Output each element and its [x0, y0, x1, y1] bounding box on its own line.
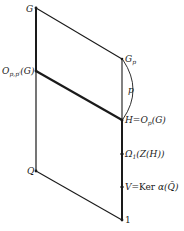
label-Q: Q — [27, 166, 35, 176]
label-G: G — [26, 4, 33, 14]
node-Q — [35, 170, 38, 173]
node-H — [121, 119, 124, 122]
edge-G-Gp — [36, 8, 122, 59]
label-V: V=Ker α(Q̄) — [125, 181, 179, 192]
label-one: 1 — [125, 215, 131, 225]
label-H: H=Op(G) — [124, 115, 166, 127]
node-G — [35, 7, 38, 10]
label-Gp: Gp — [125, 54, 136, 66]
label-Opp: Op,p′(G) — [2, 66, 35, 78]
node-Opp — [35, 70, 38, 73]
lattice-diagram: G Op,p′(G) Q Gp p H=Op(G) Ω1(Z(H)) V=Ker… — [0, 0, 184, 231]
node-one — [121, 219, 124, 222]
edge-Q-one — [36, 171, 122, 220]
edge-Opp-H — [36, 71, 122, 120]
label-Omega: Ω1(Z(H)) — [124, 149, 165, 160]
node-Gp — [121, 58, 124, 61]
label-arc-p: p — [128, 85, 134, 95]
